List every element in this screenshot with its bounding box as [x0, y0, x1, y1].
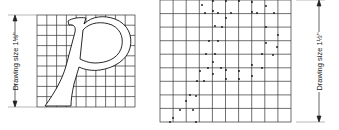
figure-canvas — [0, 0, 339, 130]
left-drawing-size-label: Drawing size 1⅛" — [11, 30, 20, 94]
arrow-up-icon — [317, 0, 321, 6]
arrow-down-icon — [13, 101, 17, 107]
arrow-down-icon — [317, 116, 321, 122]
right-drawing-size-label: Drawing size 1½" — [315, 30, 324, 94]
transfer-dots — [169, 0, 279, 123]
letter-p-outline — [45, 17, 131, 106]
arrow-up-icon — [13, 15, 17, 21]
